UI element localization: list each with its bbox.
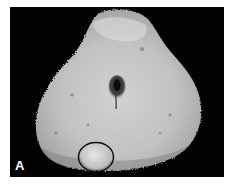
specimen-photo: A (10, 7, 224, 177)
panel-label: A (15, 159, 24, 172)
circled-nodule-annotation (79, 143, 114, 172)
specimen-illustration (10, 7, 224, 177)
